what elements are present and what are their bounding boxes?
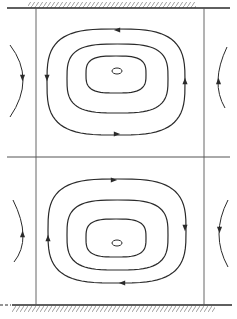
arrow-left-icon — [119, 280, 125, 285]
vortex-core — [112, 68, 122, 74]
streamline-loop-3 — [86, 56, 146, 93]
upper-cell — [10, 27, 227, 136]
vortex-core — [112, 240, 122, 246]
arrow-right-icon — [111, 177, 117, 182]
arrow-up-icon — [182, 78, 187, 84]
bottom-wall-hatching — [12, 306, 215, 312]
arrow-down-icon — [182, 225, 187, 231]
streamline-loop-2 — [67, 200, 168, 270]
left-side-streamline — [13, 200, 23, 262]
arrow-up-icon — [45, 235, 50, 241]
arrow-down-icon — [44, 75, 49, 81]
right-side-streamline — [218, 47, 227, 108]
arrow-right-icon — [114, 131, 120, 136]
streamline-loop-3 — [86, 219, 146, 257]
arrow-up-icon — [216, 78, 221, 84]
flow-cells-diagram — [0, 0, 237, 319]
left-side-streamline — [10, 45, 23, 117]
diagram-canvas — [0, 0, 237, 319]
right-side-streamline — [219, 200, 228, 267]
arrow-down-icon — [20, 75, 25, 81]
streamline-loop-1 — [47, 29, 185, 135]
streamline-loop-1 — [48, 179, 186, 283]
cell-boundaries — [7, 8, 230, 305]
streamline-loop-2 — [67, 44, 168, 113]
top-wall-hatching — [28, 2, 196, 8]
arrow-down-icon — [217, 227, 222, 233]
lower-cell — [13, 177, 228, 285]
arrow-left-icon — [114, 27, 120, 32]
arrow-up-icon — [20, 231, 25, 237]
